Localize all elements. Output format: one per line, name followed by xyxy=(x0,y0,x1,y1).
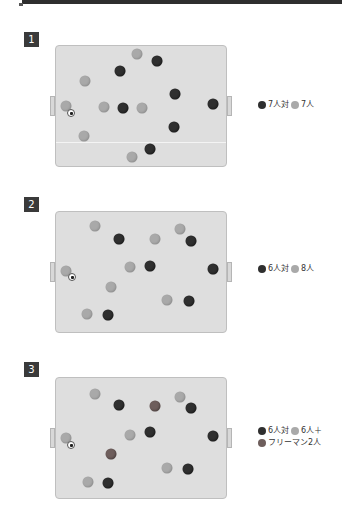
light-player-icon xyxy=(80,76,91,87)
header-mark xyxy=(19,3,23,6)
light-team-swatch xyxy=(291,265,299,273)
right-goal-icon xyxy=(227,428,232,448)
dark-team-swatch xyxy=(258,265,266,273)
legend-team-b: 7人 xyxy=(301,99,314,111)
right-goal-icon xyxy=(227,96,232,116)
legend-team-b: 6人＋ xyxy=(301,425,322,437)
dark-player-icon xyxy=(170,89,181,100)
soccer-ball-icon xyxy=(68,273,76,281)
light-player-icon xyxy=(175,224,186,235)
dark-player-icon xyxy=(152,56,163,67)
light-player-icon xyxy=(125,430,136,441)
pitch-line xyxy=(56,142,226,143)
right-goal-icon xyxy=(227,262,232,282)
step-badge-1: 1 xyxy=(24,32,39,47)
light-player-icon xyxy=(83,477,94,488)
light-player-icon xyxy=(175,392,186,403)
dark-player-icon xyxy=(103,478,114,489)
free-man-player-icon xyxy=(150,401,161,412)
dark-player-icon xyxy=(103,310,114,321)
soccer-ball-icon xyxy=(67,441,75,449)
dark-team-swatch xyxy=(258,427,266,435)
legend-3: 6人対 6人＋ フリーマン2人 xyxy=(258,425,322,449)
dark-player-icon xyxy=(186,236,197,247)
light-player-icon xyxy=(162,463,173,474)
dark-player-icon xyxy=(118,103,129,114)
light-player-icon xyxy=(162,295,173,306)
dark-player-icon xyxy=(208,264,219,275)
free-man-player-icon xyxy=(106,449,117,460)
page: 1 7人対 7人 2 6人対 8人 xyxy=(0,0,342,517)
dark-player-icon xyxy=(145,261,156,272)
step-badge-2: 2 xyxy=(24,197,39,212)
dark-player-icon xyxy=(186,403,197,414)
dark-player-icon xyxy=(208,99,219,110)
cropped-header-strip xyxy=(22,0,342,4)
dark-player-icon xyxy=(183,464,194,475)
dark-player-icon xyxy=(184,296,195,307)
pitch-3 xyxy=(55,377,227,499)
light-player-icon xyxy=(127,152,138,163)
light-player-icon xyxy=(99,102,110,113)
legend-free-man: フリーマン2人 xyxy=(268,437,321,449)
light-player-icon xyxy=(79,131,90,142)
dark-player-icon xyxy=(114,400,125,411)
dark-player-icon xyxy=(169,122,180,133)
soccer-ball-icon xyxy=(67,109,75,117)
legend-1: 7人対 7人 xyxy=(258,99,314,111)
light-team-swatch xyxy=(291,101,299,109)
light-team-swatch xyxy=(291,427,299,435)
legend-team-a: 6人対 xyxy=(268,263,289,275)
free-man-swatch xyxy=(258,439,266,447)
legend-team-a: 6人対 xyxy=(268,425,289,437)
light-player-icon xyxy=(150,234,161,245)
dark-player-icon xyxy=(145,144,156,155)
step-badge-3: 3 xyxy=(24,362,39,377)
dark-player-icon xyxy=(145,427,156,438)
dark-player-icon xyxy=(115,66,126,77)
dark-player-icon xyxy=(208,431,219,442)
light-player-icon xyxy=(132,49,143,60)
light-player-icon xyxy=(82,309,93,320)
dark-team-swatch xyxy=(258,101,266,109)
light-player-icon xyxy=(125,262,136,273)
dark-player-icon xyxy=(114,234,125,245)
legend-team-b: 8人 xyxy=(301,263,314,275)
legend-team-a: 7人対 xyxy=(268,99,289,111)
light-player-icon xyxy=(90,221,101,232)
light-player-icon xyxy=(137,103,148,114)
legend-2: 6人対 8人 xyxy=(258,263,314,275)
light-player-icon xyxy=(106,282,117,293)
light-player-icon xyxy=(90,389,101,400)
